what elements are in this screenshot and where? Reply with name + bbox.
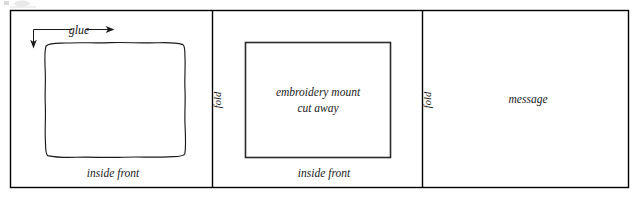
panel-right: fold message	[422, 91, 547, 108]
glue-leader-line	[34, 30, 73, 43]
panel-left-bottom-label: inside front	[87, 167, 140, 180]
embroidery-mount-label-line2: cut away	[297, 102, 339, 115]
glue-label: glue	[69, 23, 90, 37]
glue-area-hand-drawn-rectangle	[45, 42, 186, 157]
message-label: message	[509, 93, 548, 106]
panel-left: glue inside front	[30, 23, 185, 181]
card-assembly-diagram: glue inside front fold embroidery mount …	[0, 0, 634, 203]
fold-label-right: fold	[422, 91, 433, 108]
scan-artifact	[4, 1, 36, 9]
fold-label-left: fold	[212, 91, 223, 108]
panel-middle: fold embroidery mount cut away inside fr…	[212, 43, 391, 181]
embroidery-mount-rectangle	[246, 43, 391, 158]
panel-middle-bottom-label: inside front	[298, 167, 351, 180]
embroidery-mount-label-line1: embroidery mount	[276, 86, 361, 99]
